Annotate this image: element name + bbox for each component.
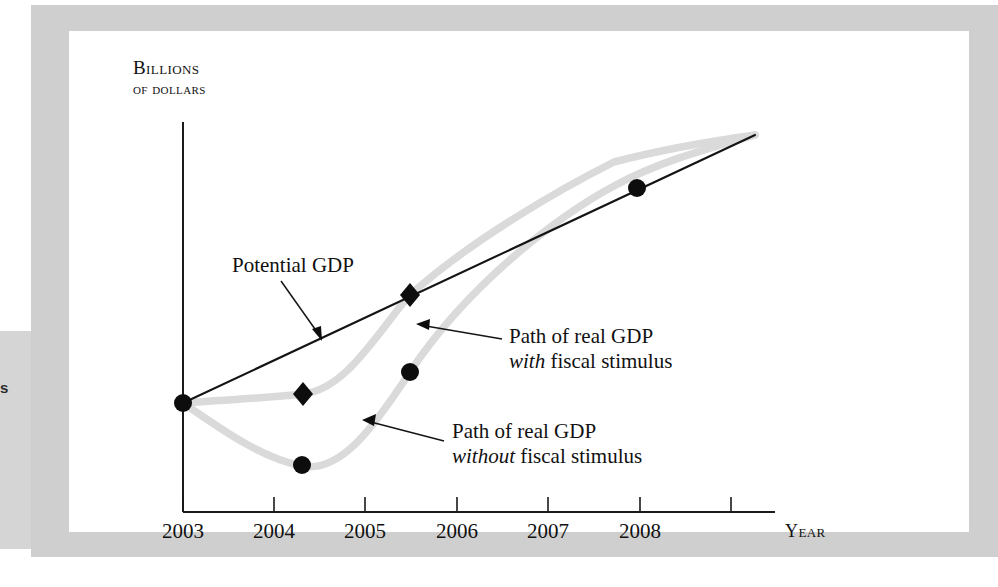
annotation-without-stimulus-rest: fiscal stimulus [515, 444, 642, 468]
annotation-without-stimulus: Path of real GDP without fiscal stimulus [452, 419, 642, 469]
annotation-without-stimulus-line1: Path of real GDP [452, 419, 642, 444]
x-tick-label-2004: 2004 [253, 519, 295, 544]
annotation-with-stimulus: Path of real GDP with fiscal stimulus [509, 324, 672, 374]
x-tick-label-2008: 2008 [619, 519, 661, 544]
x-tick-label-2007: 2007 [527, 519, 569, 544]
y-axis-title-line2: of dollars [133, 80, 206, 98]
annotation-with-stimulus-line1: Path of real GDP [509, 324, 672, 349]
marker-origin-2003 [174, 394, 192, 412]
leader-line-without-stimulus [367, 421, 444, 441]
marker-circle-2005-without [401, 363, 419, 381]
annotation-with-stimulus-line2: with fiscal stimulus [509, 349, 672, 374]
annotation-with-stimulus-emphasis: with [509, 349, 545, 373]
annotation-potential-gdp: Potential GDP [232, 253, 354, 278]
marker-circle-2004-without [293, 456, 311, 474]
annotation-without-stimulus-line2: without fiscal stimulus [452, 444, 642, 469]
marker-circle-2007 [628, 179, 646, 197]
x-axis-ticks [183, 497, 731, 512]
annotation-without-stimulus-emphasis: without [452, 444, 515, 468]
annotation-with-stimulus-rest: fiscal stimulus [545, 349, 672, 373]
y-axis-title-line1: Billions [133, 57, 199, 79]
leader-arrowhead-with-stimulus [416, 319, 430, 330]
figure-page: s [0, 0, 998, 587]
x-tick-label-2005: 2005 [344, 519, 386, 544]
x-tick-label-2003: 2003 [162, 519, 204, 544]
marker-diamond-2004-with [293, 382, 313, 406]
x-axis-title: Year [785, 521, 826, 542]
series-without-stimulus-curve [183, 135, 755, 467]
x-tick-label-2006: 2006 [436, 519, 478, 544]
